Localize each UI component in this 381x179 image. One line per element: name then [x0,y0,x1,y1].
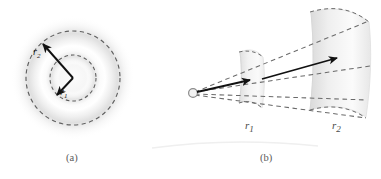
point-source-marker [189,89,198,98]
label-r2-b-sub: 2 [336,124,341,134]
near-spherical-cap [239,50,264,108]
figure-container: r2 r1 r1 r2 (a) (b) [0,0,381,179]
panel-a-group [11,16,135,140]
label-r2-a: r2 [33,46,40,60]
label-r1-a-sub: 1 [64,92,68,100]
label-r1-a: r1 [60,86,67,100]
baseline-wisp [152,142,318,148]
caption-a: (a) [66,152,78,163]
figure-svg [0,0,381,179]
caption-b: (b) [260,152,272,163]
label-r1-b: r1 [245,119,254,134]
label-r1-b-sub: 1 [249,124,254,134]
label-r2-a-sub: 2 [37,52,41,60]
label-r2-b: r2 [332,119,341,134]
